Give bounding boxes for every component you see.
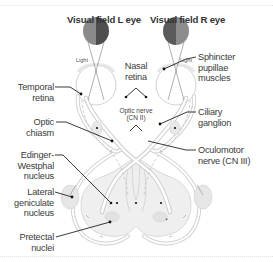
oculomotor-nerve-label: Oculomotor nerve (CN III) [198, 145, 273, 166]
lateral-geniculate-label: Lateral geniculate nucleus [4, 187, 54, 219]
optic-chiasm-label: Optic chiasm [4, 117, 54, 138]
ciliary-ganglion-label: Ciliary ganglion [198, 107, 268, 128]
title-right-eye: Visual field R eye [150, 14, 225, 25]
pretectal-nuclei-label: Pretectal nuclei [4, 232, 54, 253]
optic-nerve-label: Optic nerve (CN II) [114, 107, 158, 121]
light-label-left: Light [76, 57, 88, 63]
title-left-eye: Visual field L eye [67, 14, 141, 25]
edinger-westphal-label: Edinger- Westphal nucleus [4, 150, 54, 182]
light-label-right: Light [180, 57, 192, 63]
nasal-retina-pointer [126, 88, 146, 97]
lgn-right-shape [194, 185, 212, 209]
midbrain-shape [81, 158, 191, 236]
lgn-left-shape [61, 185, 79, 209]
temporal-retina-label: Temporal retina [4, 82, 54, 103]
optic-nerve-pointer [130, 125, 142, 131]
sphincter-pupillae-label: Sphincter pupillae muscles [198, 52, 268, 84]
nasal-retina-label: Nasal retina [117, 61, 155, 82]
